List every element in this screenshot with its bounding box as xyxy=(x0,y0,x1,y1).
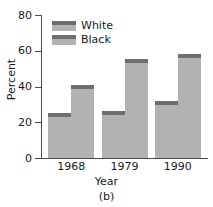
bar-white-1979 xyxy=(102,111,125,158)
y-axis-tick-label: 0 xyxy=(25,153,32,164)
x-axis-tick-label: 1990 xyxy=(145,161,211,172)
bar-cap xyxy=(102,111,125,115)
x-axis-line xyxy=(41,158,208,159)
y-axis-tick xyxy=(35,158,41,159)
y-axis-tick-label: 60 xyxy=(18,45,32,56)
legend-item-black: Black xyxy=(52,33,132,46)
bar-white-1990 xyxy=(155,101,178,158)
bar-white-1968 xyxy=(48,113,71,158)
legend-label-white: White xyxy=(81,20,113,31)
legend-item-white: White xyxy=(52,19,132,32)
figure-container: Percent 020406080 196819791990 Year (b) … xyxy=(0,0,213,207)
bar-cap xyxy=(178,54,201,58)
y-axis-tick-label: 80 xyxy=(18,10,32,21)
legend-label-black: Black xyxy=(81,34,111,45)
y-axis-title: Percent xyxy=(6,50,17,110)
figure-caption: (b) xyxy=(0,191,213,202)
chart-legend: White Black xyxy=(52,19,132,47)
bar-black-1990 xyxy=(178,54,201,158)
legend-swatch-black-icon xyxy=(52,35,76,45)
legend-swatch-white-icon xyxy=(52,21,76,31)
x-axis-title: Year xyxy=(0,176,213,187)
bar-cap xyxy=(71,85,94,89)
y-axis-tick-label: 40 xyxy=(18,81,32,92)
bar-black-1968 xyxy=(71,85,94,158)
bar-cap xyxy=(125,59,148,63)
bar-cap xyxy=(155,101,178,105)
bar-cap xyxy=(48,113,71,117)
bar-black-1979 xyxy=(125,59,148,158)
y-axis-tick-label: 20 xyxy=(18,117,32,128)
